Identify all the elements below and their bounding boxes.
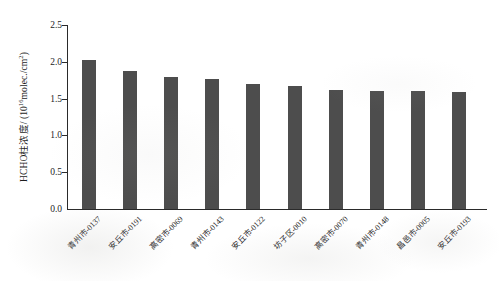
plot-area: [68, 25, 480, 209]
x-axis-tick-label: 安丘市-0191: [106, 213, 144, 251]
bar[interactable]: [288, 86, 302, 209]
y-axis-tick-label: 0.0: [50, 204, 62, 214]
x-axis-tick-label: 安丘市-0193: [435, 213, 473, 251]
x-axis-tick-labels: 青州市-0137安丘市-0191高密市-0069青州市-0143安丘市-0122…: [68, 209, 480, 281]
y-axis-tick-mark: [62, 25, 67, 26]
y-axis-title: HCHO柱浓度/ (1016molec./cm2): [12, 28, 34, 206]
y-axis-tick-label: 2.0: [50, 57, 62, 67]
y-axis-title-prefix: HCHO柱浓度/ (10: [19, 106, 29, 182]
y-axis-tick-mark: [62, 135, 67, 136]
bar[interactable]: [246, 84, 260, 209]
bar-slot: [452, 25, 466, 209]
y-axis-tick-mark: [62, 99, 67, 100]
y-axis-tick-mark: [62, 62, 67, 63]
bar-chart-figure: HCHO柱浓度/ (1016molec./cm2) 2.52.01.51.00.…: [0, 0, 499, 281]
bar[interactable]: [205, 79, 219, 209]
x-axis-tick-label: 青州市-0148: [353, 213, 391, 251]
bar-slot: [205, 25, 219, 209]
bar-slot: [82, 25, 96, 209]
bar[interactable]: [370, 91, 384, 209]
bar-slot: [164, 25, 178, 209]
x-axis-tick-label: 高密市-0070: [312, 213, 350, 251]
y-axis-tick-label: 1.5: [50, 94, 62, 104]
x-axis-tick-label: 昌邑市-0005: [394, 213, 432, 251]
bar-slot: [288, 25, 302, 209]
y-axis-tick-label: 1.0: [50, 130, 62, 140]
bar-slot: [411, 25, 425, 209]
bar-slot: [329, 25, 343, 209]
bar-slot: [246, 25, 260, 209]
y-axis-tick-label: 2.5: [50, 20, 62, 30]
y-axis-title-suffix: molec./cm: [19, 59, 29, 100]
x-axis-tick-label: 高密市-0069: [147, 213, 185, 251]
y-axis-title-text: HCHO柱浓度/ (1016molec./cm2): [16, 52, 30, 182]
bar[interactable]: [452, 92, 466, 209]
bar[interactable]: [329, 90, 343, 209]
x-axis-tick-label: 青州市-0143: [188, 213, 226, 251]
y-axis-tick-labels: 2.52.01.51.00.50.0: [34, 0, 62, 281]
bar[interactable]: [411, 91, 425, 209]
y-axis-title-close: ): [19, 52, 29, 55]
bar-slot: [123, 25, 137, 209]
x-axis-tick-label: 坊子区-0010: [270, 213, 308, 251]
x-axis-tick-label: 安丘市-0122: [229, 213, 267, 251]
y-axis-tick-label: 0.5: [50, 167, 62, 177]
bar[interactable]: [123, 71, 137, 209]
y-axis-title-exponent: 16: [17, 99, 24, 106]
bar[interactable]: [164, 77, 178, 209]
y-axis-title-suffix-exponent: 2: [17, 55, 24, 58]
bar-slot: [370, 25, 384, 209]
y-axis-tick-mark: [62, 172, 67, 173]
x-axis-tick-label: 青州市-0137: [64, 213, 102, 251]
bar[interactable]: [82, 60, 96, 209]
